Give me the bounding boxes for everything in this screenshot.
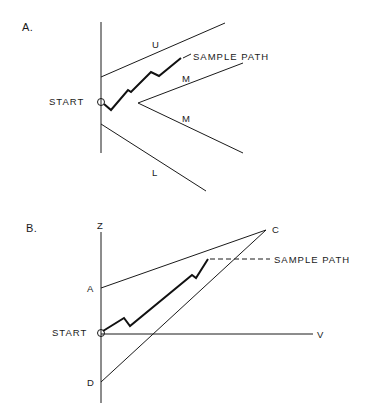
middle-lower-boundary xyxy=(138,103,243,153)
label-l: L xyxy=(152,167,158,178)
label-m-upper: M xyxy=(182,73,191,84)
label-u: U xyxy=(152,39,160,50)
axis-z-label: Z xyxy=(97,220,104,231)
point-c-label: C xyxy=(272,224,280,235)
upper-boundary-u xyxy=(101,23,225,77)
sample-path-label: SAMPLE PATH xyxy=(274,254,350,265)
line-d-c xyxy=(101,230,266,382)
panel-a: A. U M M L START SAMPLE PATH xyxy=(22,21,269,191)
axis-v-label: V xyxy=(317,329,324,340)
diagram-canvas: A. U M M L START SAMPLE PATH B. Z V A C … xyxy=(0,0,366,414)
panel-b: B. Z V A C D START SAMPLE PATH xyxy=(26,220,350,403)
point-a-label: A xyxy=(87,283,94,294)
label-m-lower: M xyxy=(182,113,191,124)
lower-boundary-l xyxy=(101,124,206,191)
panel-b-label: B. xyxy=(26,222,37,234)
sample-path xyxy=(104,58,181,110)
line-a-c xyxy=(101,230,266,288)
sample-path-label: SAMPLE PATH xyxy=(193,51,269,62)
point-d-label: D xyxy=(87,377,95,388)
sample-path-pointer xyxy=(183,54,191,58)
start-label: START xyxy=(52,327,87,338)
start-label: START xyxy=(49,96,84,107)
panel-a-label: A. xyxy=(22,21,33,33)
sample-path xyxy=(103,259,208,331)
